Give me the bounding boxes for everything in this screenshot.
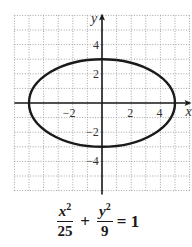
x-tick-label: −2 — [63, 106, 76, 120]
x-tick-label: 4 — [156, 106, 162, 120]
ellipse-equation: x2 25 + y2 9 = 1 — [0, 196, 192, 247]
ellipse-plot: −22442−2−4xy — [0, 0, 192, 196]
y-tick-label: −4 — [86, 154, 99, 168]
denominator-25: 25 — [58, 222, 73, 239]
numerator-y: y — [99, 203, 106, 219]
fraction-y: y2 9 — [97, 204, 113, 239]
exponent: 2 — [106, 201, 111, 212]
axes — [14, 13, 191, 194]
exponent: 2 — [66, 201, 71, 212]
fraction-x: x2 25 — [57, 204, 74, 239]
y-tick-label: 2 — [93, 67, 99, 81]
denominator-9: 9 — [101, 222, 109, 239]
x-axis-label: x — [185, 104, 192, 119]
plus-sign: + — [80, 212, 90, 232]
x-tick-label: 2 — [127, 106, 133, 120]
equals-one: = 1 — [117, 212, 139, 232]
y-axis-label: y — [89, 11, 98, 26]
y-tick-label: −2 — [86, 125, 99, 139]
y-tick-label: 4 — [93, 38, 99, 52]
